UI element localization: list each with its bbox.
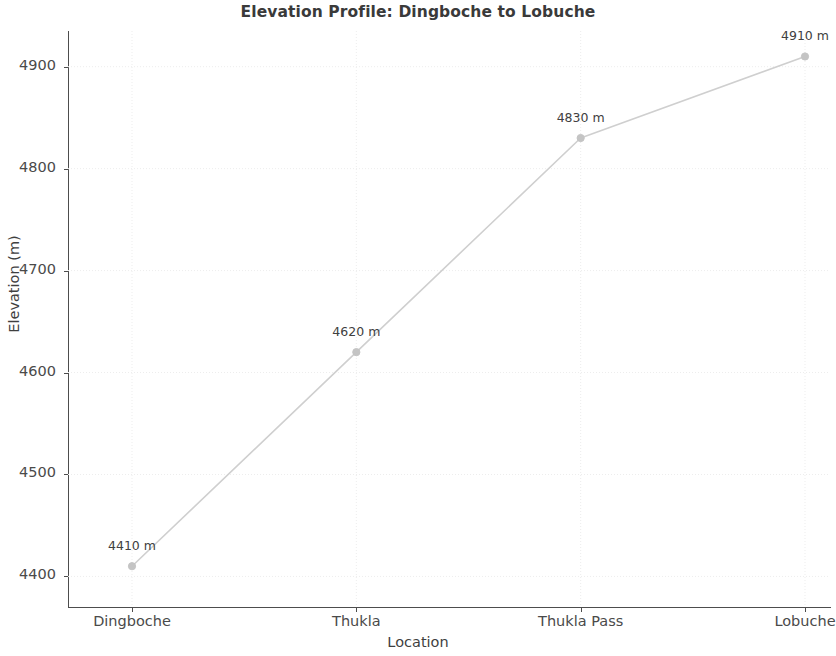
x-tick-mark [132,608,133,612]
data-point-label: 4620 m [332,324,380,339]
data-point-label: 4830 m [557,110,605,125]
y-tick-label: 4800 [0,159,56,175]
x-tick-label: Thukla Pass [491,613,671,629]
x-tick-mark [805,608,806,612]
elevation-line [132,56,805,566]
elevation-chart: Elevation Profile: Dingboche to Lobuche … [0,0,836,656]
data-point-label: 4410 m [108,538,156,553]
data-point-marker [353,349,360,356]
data-point-marker [128,563,135,570]
x-tick-mark [356,608,357,612]
y-tick-label: 4900 [0,57,56,73]
data-point-label: 4910 m [781,28,829,43]
plot-area [68,31,830,607]
data-point-marker [577,134,584,141]
y-tick-label: 4500 [0,464,56,480]
data-point-marker [801,53,808,60]
x-axis-label: Location [0,634,836,650]
elevation-series [68,31,830,607]
x-tick-label: Lobuche [715,613,836,629]
x-tick-label: Dingboche [42,613,222,629]
y-axis-label: Elevation (m) [6,189,22,379]
x-tick-label: Thukla [266,613,446,629]
x-tick-mark [581,608,582,612]
chart-title: Elevation Profile: Dingboche to Lobuche [0,3,836,21]
y-tick-label: 4400 [0,566,56,582]
x-axis-spine [68,607,831,608]
